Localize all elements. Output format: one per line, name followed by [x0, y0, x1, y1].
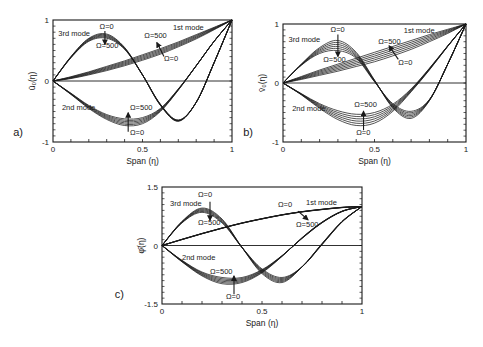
x-axis-title: Span (η) — [246, 318, 279, 328]
annotation-label: Ω=0 — [164, 54, 178, 63]
annotation-label: 1st mode — [404, 26, 435, 35]
annotation-label: 1st mode — [173, 23, 204, 32]
x-tick-label: 1 — [464, 145, 469, 154]
y-tick-label: 1 — [45, 16, 50, 25]
x-tick-label: 0 — [160, 307, 165, 316]
y-axis-title: v̄₀(η) — [257, 74, 267, 92]
annotation-label: Ω=500 — [210, 267, 233, 276]
annotation-label: Ω=500 — [354, 100, 377, 109]
panel-c-torsional-rotation: 00.51-1.501.5Span (η)φ̄(η)c)3rd modeΩ=0Ω… — [115, 183, 365, 328]
x-tick-label: 0 — [281, 145, 286, 154]
mode-shape-figure: 00.51-101Span (η)ū₀(η)a)3rd modeΩ=0Ω=500… — [0, 0, 483, 347]
y-tick-label: 1 — [275, 20, 280, 29]
x-axis-title: Span (η) — [126, 156, 159, 166]
panel-label: c) — [115, 288, 124, 300]
x-tick-label: 0.5 — [137, 145, 149, 154]
annotation-label: 2nd mode — [292, 104, 325, 113]
annotation-label: Ω=0 — [198, 190, 212, 199]
annotation-label: Ω=0 — [278, 200, 292, 209]
annotation-label: 2nd mode — [62, 103, 95, 112]
y-axis-title: ū₀(η) — [27, 72, 37, 91]
y-tick-label: 0 — [154, 242, 159, 251]
annotation-label: Ω=0 — [398, 58, 412, 67]
annotation-label: Ω=500 — [198, 218, 221, 227]
annotation-label: 3rd mode — [170, 199, 202, 208]
annotation-label: 2nd mode — [182, 253, 215, 262]
y-tick-label: 0 — [45, 77, 50, 86]
annotation-label: Ω=0 — [331, 25, 345, 34]
panel-a-axial-displacement: 00.51-101Span (η)ū₀(η)a)3rd modeΩ=0Ω=500… — [13, 16, 235, 166]
x-tick-label: 1 — [230, 145, 235, 154]
series-3rd-mode — [162, 207, 362, 283]
trend-arrow-icon — [298, 211, 308, 220]
x-tick-label: 0.5 — [369, 145, 381, 154]
y-axis-title: φ̄(η) — [136, 237, 146, 253]
annotation-label: 3rd mode — [288, 35, 320, 44]
y-tick-label: 0 — [275, 79, 280, 88]
annotation-label: 3rd mode — [58, 29, 90, 38]
annotation-label: Ω=0 — [130, 128, 144, 137]
annotation-label: Ω=0 — [226, 292, 240, 301]
x-tick-label: 1 — [360, 307, 365, 316]
panel-label: b) — [243, 126, 253, 138]
annotation-label: Ω=500 — [130, 103, 153, 112]
annotation-label: Ω=500 — [323, 55, 346, 64]
y-tick-label: -1.5 — [144, 300, 158, 309]
annotation-label: Ω=500 — [296, 220, 319, 229]
panel-b-lateral-displacement: 00.51-101Span (η)v̄₀(η)b)3rd modeΩ=0Ω=50… — [243, 20, 469, 166]
series-1st-mode — [283, 24, 466, 83]
annotation-label: Ω=500 — [144, 31, 167, 40]
x-tick-label: 0.5 — [256, 307, 268, 316]
annotation-label: Ω=500 — [96, 41, 119, 50]
x-axis-title: Span (η) — [358, 156, 391, 166]
x-tick-label: 0 — [51, 145, 56, 154]
y-tick-label: 1.5 — [147, 183, 159, 192]
annotation-label: Ω=500 — [378, 37, 401, 46]
mode-curve — [283, 24, 466, 83]
annotation-label: Ω=0 — [100, 22, 114, 31]
panel-label: a) — [13, 126, 23, 138]
y-tick-label: -1 — [272, 138, 280, 147]
annotation-label: 1st mode — [306, 198, 337, 207]
y-tick-label: -1 — [42, 138, 50, 147]
